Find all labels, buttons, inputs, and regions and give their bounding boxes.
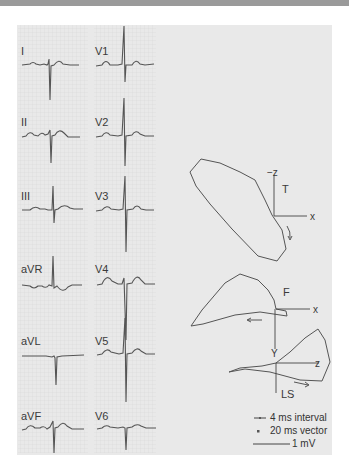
- axis-label-x: x: [310, 211, 315, 222]
- lead-label: V1: [95, 45, 108, 57]
- legend: 4 ms interval 20 ms vector 1 mV: [253, 412, 328, 449]
- lead-label: aVR: [21, 263, 42, 275]
- legend-item-vector: 20 ms vector: [257, 425, 328, 436]
- legend-label: 20 ms vector: [270, 425, 328, 436]
- plane-label-F: F: [283, 286, 290, 298]
- axis-label-y: Y: [271, 348, 278, 359]
- dot-icon: [257, 430, 260, 433]
- ecg-grid-right: [94, 25, 156, 453]
- lead-label: V2: [95, 116, 108, 128]
- legend-item-scale: 1 mV: [253, 438, 316, 449]
- legend-label: 4 ms interval: [270, 412, 327, 423]
- vcg-frontal: F x Y: [191, 274, 318, 359]
- legend-label: 1 mV: [292, 438, 316, 449]
- lead-label: V4: [95, 263, 108, 275]
- axis-label-z: z: [315, 358, 320, 369]
- vcg-transverse: −z T x: [190, 159, 315, 261]
- figure-canvas: I II III aVR aVL aVF V1 V2 V3 V4 V5: [0, 0, 349, 476]
- lead-label: aVL: [21, 335, 41, 347]
- axis-label-x: x: [313, 304, 318, 315]
- frontal-loop: [191, 274, 287, 326]
- plane-label-T: T: [282, 183, 289, 195]
- axis-label-neg-z: −z: [267, 167, 278, 178]
- ecg-grid-left: [18, 25, 88, 453]
- lead-label: I: [21, 45, 24, 57]
- left-sagittal-loop: [229, 329, 330, 381]
- lead-label: aVF: [21, 410, 41, 422]
- lead-label: V3: [95, 190, 108, 202]
- plane-label-LS: LS: [281, 388, 294, 400]
- lead-label: V6: [95, 410, 108, 422]
- lead-label: III: [21, 190, 30, 202]
- vcg-left-sagittal: z LS: [229, 329, 330, 400]
- legend-item-interval: 4 ms interval: [254, 412, 327, 423]
- lead-label: II: [21, 116, 27, 128]
- lead-label: V5: [95, 335, 108, 347]
